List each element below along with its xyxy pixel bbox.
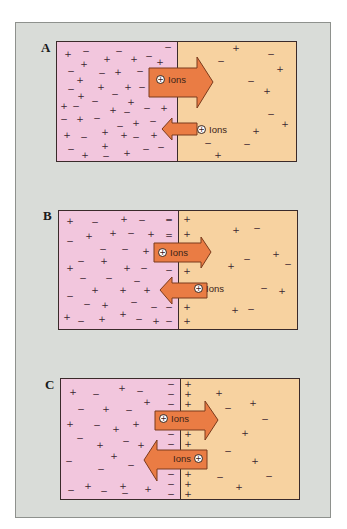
positive-charge-sign: + [263,87,271,96]
ion-label-text: Ions [173,453,191,464]
negative-charge-sign: − [82,47,90,56]
positive-charge-sign: + [184,390,192,399]
negative-charge-sign: − [125,406,133,415]
negative-charge-sign: − [67,67,75,76]
negative-charge-sign: − [133,277,141,286]
negative-charge-sign: − [76,434,84,443]
positive-charge-sign: + [85,232,93,241]
negative-charge-sign: − [132,133,140,142]
panel-label-a: A [41,40,50,56]
negative-charge-sign: − [80,133,88,142]
positive-charge-sign: + [132,420,140,429]
positive-charge-sign: + [98,315,106,324]
positive-ion-icon: + [194,284,203,293]
positive-charge-sign: + [152,317,160,326]
negative-charge-sign: − [150,303,158,312]
positive-charge-sign: + [215,389,223,398]
positive-charge-sign: + [143,398,151,407]
ion-label-text: Ions [171,413,189,424]
positive-charge-sign: + [124,83,132,92]
positive-ion-icon: + [158,248,167,257]
negative-charge-sign: − [65,457,73,466]
negative-charge-sign: − [224,447,232,456]
negative-charge-sign: − [216,473,224,482]
negative-charge-sign: − [167,490,175,499]
ion-label: + Ions [158,247,188,258]
negative-charge-sign: − [247,305,255,314]
negative-charge-sign: − [165,317,173,326]
negative-charge-sign: − [138,83,146,92]
negative-charge-sign: − [261,415,269,424]
negative-charge-sign: − [267,110,275,119]
positive-charge-sign: + [66,420,74,429]
negative-charge-sign: − [93,114,101,123]
positive-charge-sign: + [91,286,99,295]
negative-charge-sign: − [77,257,85,266]
positive-charge-sign: + [101,142,109,151]
negative-charge-sign: − [105,274,113,283]
positive-charge-sign: + [227,262,235,271]
positive-charge-sign: + [123,264,131,273]
negative-charge-sign: − [98,69,106,78]
negative-charge-sign: − [130,298,138,307]
positive-charge-sign: + [109,106,117,115]
negative-charge-sign: − [122,437,130,446]
positive-charge-sign: + [102,405,110,414]
negative-charge-sign: − [99,245,107,254]
positive-charge-sign: + [123,149,131,158]
negative-charge-sign: − [138,216,146,225]
negative-charge-sign: − [149,117,157,126]
negative-charge-sign: − [102,152,110,161]
arrow-left-icon [162,118,198,142]
positive-charge-sign: + [251,457,259,466]
panel-a: +−−−+++−+−−+−+++−−+−−+−++−+−−+−−+−+−+++−… [56,41,297,162]
negative-charge-sign: − [142,145,150,154]
ion-label: + Ions [194,283,224,294]
positive-charge-sign: + [231,306,239,315]
negative-charge-sign: − [217,57,225,66]
ion-flow-arrow-left [162,118,198,142]
negative-charge-sign: − [267,50,275,59]
positive-charge-sign: + [110,452,118,461]
negative-charge-sign: − [253,224,261,233]
positive-charge-sign: + [276,65,284,74]
negative-charge-sign: − [115,47,123,56]
negative-charge-sign: − [127,229,135,238]
positive-charge-sign: + [278,287,286,296]
positive-charge-sign: + [281,120,289,129]
positive-charge-sign: + [232,44,240,53]
negative-charge-sign: − [204,139,212,148]
negative-charge-sign: − [67,486,75,495]
positive-charge-sign: + [183,215,191,224]
positive-charge-sign: + [143,286,151,295]
negative-charge-sign: − [136,387,144,396]
positive-charge-sign: + [76,76,84,85]
negative-charge-sign: − [77,317,85,326]
negative-charge-sign: − [284,260,292,269]
positive-charge-sign: + [100,257,108,266]
positive-charge-sign: + [96,441,104,450]
negative-charge-sign: − [67,145,75,154]
panel-label-c: C [45,377,54,393]
negative-charge-sign: − [79,274,87,283]
negative-charge-sign: − [67,85,75,94]
positive-charge-sign: + [241,429,249,438]
positive-charge-sign: + [235,483,243,492]
negative-charge-sign: − [72,102,80,111]
positive-charge-sign: + [272,250,280,259]
ion-label-text: Ions [170,247,188,258]
positive-charge-sign: + [183,317,191,326]
negative-charge-sign: − [167,390,175,399]
negative-charge-sign: − [165,215,173,224]
panel-c: +−+−+−+−+−++−+−+−+−−+−−+−+−−−−−−−−++++++… [60,378,300,500]
positive-charge-sign: + [77,92,85,101]
positive-charge-sign: + [80,60,88,69]
positive-charge-sign: + [63,131,71,140]
ion-label-text: Ions [209,124,227,135]
panel-label-b: B [43,208,52,224]
ion-label-text: Ions [206,283,224,294]
ion-label: Ions + [173,453,203,464]
negative-charge-sign: − [121,245,129,254]
positive-charge-sign: + [103,55,111,64]
positive-charge-sign: + [112,425,120,434]
